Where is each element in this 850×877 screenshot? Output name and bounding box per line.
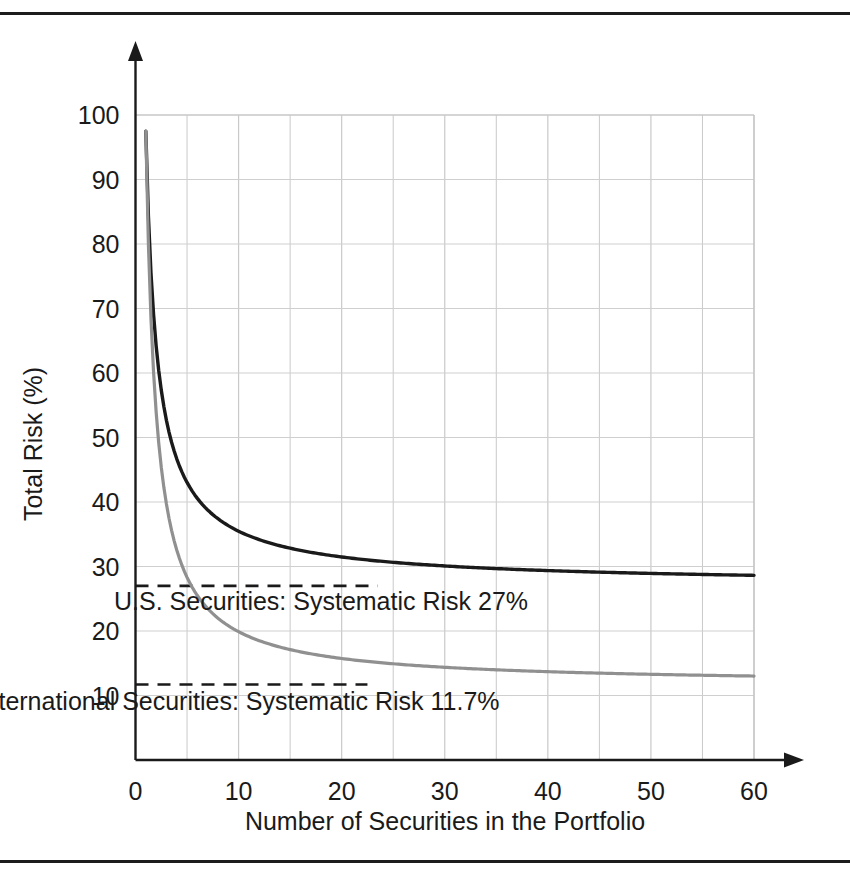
y-tick-label: 80 (92, 230, 120, 258)
y-tick-label: 20 (92, 617, 120, 645)
annotation-us-securities: U.S. Securities: Systematic Risk 27% (114, 587, 528, 615)
x-axis-tick-labels: 0102030405060 (129, 777, 768, 805)
y-tick-label: 90 (92, 166, 120, 194)
bottom-rule (0, 860, 850, 863)
y-tick-label: 100 (78, 101, 120, 129)
y-tick-label: 50 (92, 424, 120, 452)
annotation-international-securities: International Securities: Systematic Ris… (0, 687, 500, 715)
x-tick-label: 0 (129, 777, 143, 805)
y-axis-tick-labels: 102030405060708090100 (78, 101, 120, 710)
x-tick-label: 40 (534, 777, 562, 805)
y-tick-label: 60 (92, 359, 120, 387)
chart-svg: 0102030405060 102030405060708090100 Numb… (0, 14, 850, 860)
risk-diversification-chart: 0102030405060 102030405060708090100 Numb… (0, 14, 850, 860)
y-tick-label: 70 (92, 295, 120, 323)
x-tick-label: 10 (225, 777, 253, 805)
y-tick-label: 40 (92, 488, 120, 516)
x-tick-label: 50 (637, 777, 665, 805)
chart-page: 0102030405060 102030405060708090100 Numb… (0, 0, 850, 877)
x-tick-label: 60 (740, 777, 768, 805)
series-line-us-securities (146, 131, 754, 575)
y-axis-title: Total Risk (%) (19, 367, 47, 521)
x-tick-label: 20 (328, 777, 356, 805)
y-tick-label: 30 (92, 553, 120, 581)
x-tick-label: 30 (431, 777, 459, 805)
x-axis-title: Number of Securities in the Portfolio (245, 807, 645, 835)
